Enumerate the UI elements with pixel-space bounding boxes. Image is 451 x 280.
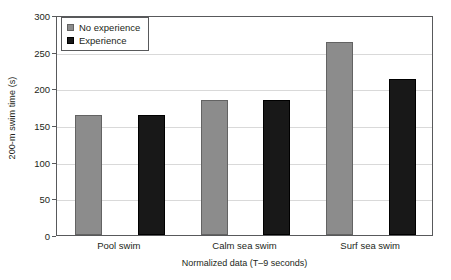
bar	[263, 100, 290, 235]
legend-swatch-icon	[67, 37, 74, 44]
y-tick-mark	[52, 236, 56, 237]
legend-item: Experience	[67, 34, 140, 47]
bar	[75, 115, 102, 235]
bar	[389, 79, 416, 235]
legend-label: No experience	[79, 21, 140, 34]
legend-item: No experience	[67, 21, 140, 34]
bar	[138, 115, 165, 235]
x-tick-label: Surf sea swim	[340, 240, 400, 251]
legend: No experienceExperience	[61, 17, 149, 51]
legend-label: Experience	[79, 34, 127, 47]
x-tick-label: Calm sea swim	[212, 240, 276, 251]
x-axis-title: Normalized data (T–9 seconds)	[56, 258, 433, 268]
plot-area: No experienceExperience	[56, 16, 433, 236]
legend-swatch-icon	[67, 24, 74, 31]
bar	[326, 42, 353, 235]
y-tick-label: 150	[12, 121, 50, 132]
y-tick-label: 250	[12, 47, 50, 58]
y-tick-label: 200	[12, 84, 50, 95]
x-axis-tick-labels: Pool swimCalm sea swimSurf sea swim	[56, 240, 433, 254]
x-tick-label: Pool swim	[97, 240, 140, 251]
y-tick-label: 50	[12, 194, 50, 205]
bar	[201, 100, 228, 235]
bar-chart-figure: 200-m swim time (s) 050100150200250300 N…	[0, 0, 451, 280]
y-tick-label: 100	[12, 157, 50, 168]
y-tick-label: 0	[12, 231, 50, 242]
y-tick-label: 300	[12, 11, 50, 22]
